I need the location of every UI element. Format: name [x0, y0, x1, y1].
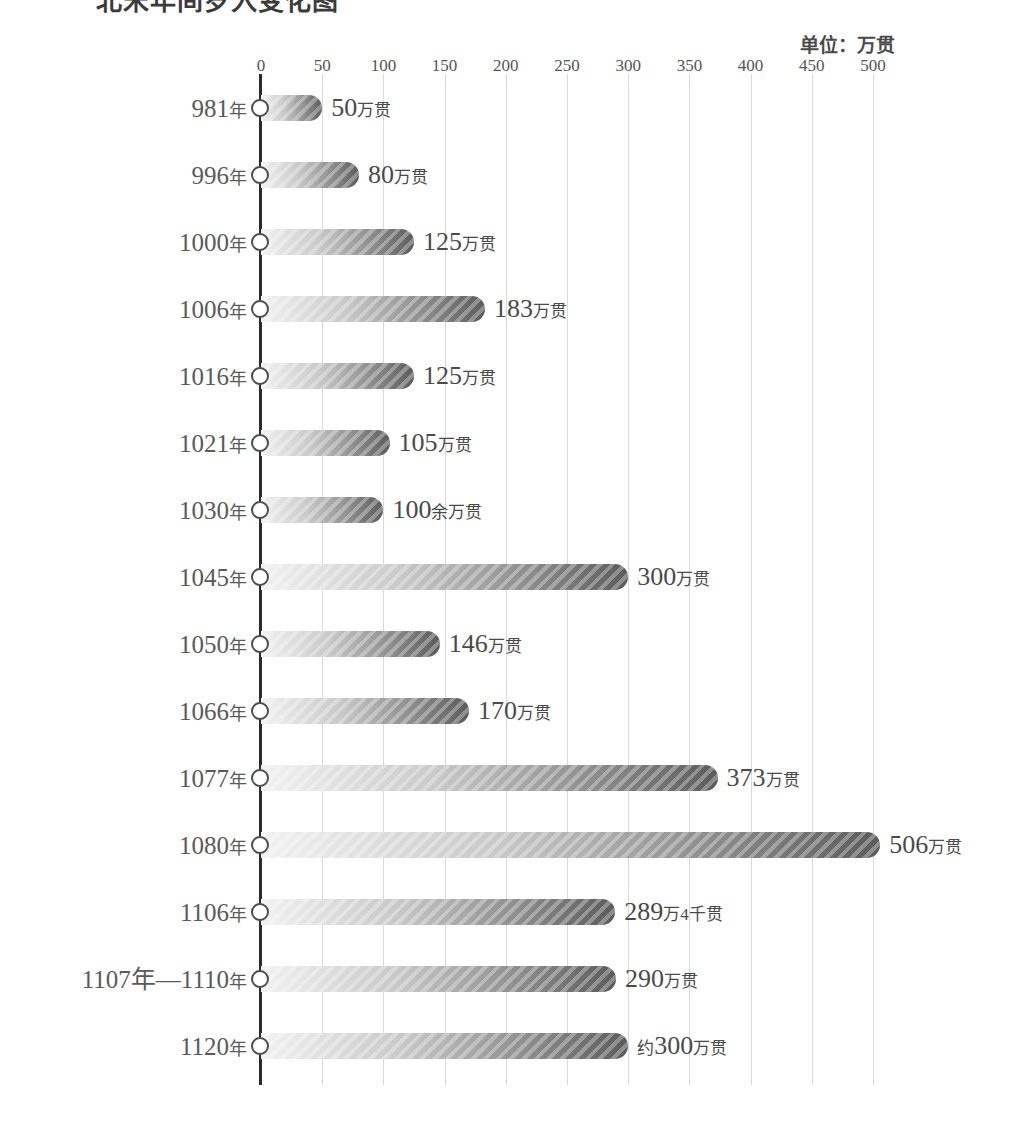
value-number: 289	[624, 897, 663, 926]
value-unit: 万贯	[517, 704, 551, 723]
row-year-unit: 年	[229, 369, 247, 389]
value-unit: 万4千贯	[663, 905, 723, 924]
value-number: 170	[478, 696, 517, 725]
row-year-unit: 年	[229, 1039, 247, 1059]
row-year-label: 981年	[192, 96, 248, 121]
value-unit: 万贯	[488, 637, 522, 656]
bar-row[interactable]: 996年80万贯	[0, 155, 1023, 195]
bar-row[interactable]: 1045年300万贯	[0, 557, 1023, 597]
row-year-label: 1000年	[179, 230, 247, 255]
row-year-number: 1030	[179, 497, 229, 524]
row-year-unit: 年	[229, 302, 247, 322]
bar[interactable]	[261, 631, 440, 657]
bar-row[interactable]: 1006年183万贯	[0, 289, 1023, 329]
value-prefix: 约	[637, 1039, 654, 1058]
row-year-number: 1016	[179, 363, 229, 390]
bar-value-label: 100余万贯	[392, 497, 482, 523]
row-year-unit: 年	[229, 570, 247, 590]
bar-row[interactable]: 1077年373万贯	[0, 758, 1023, 798]
bar-value-label: 50万贯	[331, 95, 391, 121]
row-year-unit: 年	[229, 503, 247, 523]
value-unit: 万贯	[693, 1039, 727, 1058]
row-axis-marker	[251, 702, 269, 720]
bar[interactable]	[261, 95, 322, 121]
row-year-label: 1107年—1110年	[82, 967, 247, 992]
row-year-unit: 年	[229, 235, 247, 255]
value-unit: 万贯	[664, 972, 698, 991]
value-unit: 万贯	[928, 838, 962, 857]
row-year-label: 1066年	[179, 699, 247, 724]
row-axis-marker	[251, 635, 269, 653]
row-year-number: 1080	[179, 832, 229, 859]
bar-value-label: 125万贯	[423, 363, 496, 389]
bar-row[interactable]: 1000年125万贯	[0, 222, 1023, 262]
bar[interactable]	[261, 765, 718, 791]
row-year-unit: 年	[229, 704, 247, 724]
row-year-number: 1000	[179, 229, 229, 256]
bar-row[interactable]: 1050年146万贯	[0, 624, 1023, 664]
bar-value-label: 506万贯	[889, 832, 962, 858]
row-year-label: 1080年	[179, 833, 247, 858]
value-unit: 万贯	[462, 369, 496, 388]
bar-row[interactable]: 1107年—1110年290万贯	[0, 959, 1023, 999]
value-number: 300	[637, 562, 676, 591]
plot-area: 050100150200250300350400450500 981年50万贯9…	[0, 0, 1023, 1134]
value-number: 80	[368, 160, 394, 189]
bar[interactable]	[261, 1033, 628, 1059]
bar[interactable]	[261, 497, 383, 523]
bar-value-label: 373万贯	[727, 765, 800, 791]
bar-row[interactable]: 1016年125万贯	[0, 356, 1023, 396]
row-year-label: 1120年	[180, 1034, 247, 1059]
value-number: 290	[625, 964, 664, 993]
bar-row[interactable]: 1021年105万贯	[0, 423, 1023, 463]
row-year-number: 1066	[179, 698, 229, 725]
bar[interactable]	[261, 899, 615, 925]
bar-rows: 981年50万贯996年80万贯1000年125万贯1006年183万贯1016…	[0, 0, 1023, 1134]
value-number: 125	[423, 227, 462, 256]
bar-row[interactable]: 981年50万贯	[0, 88, 1023, 128]
bar-value-label: 约300万贯	[637, 1033, 727, 1059]
bar-row[interactable]: 1030年100余万贯	[0, 490, 1023, 530]
bar[interactable]	[261, 363, 414, 389]
bar[interactable]	[261, 296, 485, 322]
value-unit: 万贯	[766, 771, 800, 790]
bar[interactable]	[261, 832, 880, 858]
bar[interactable]	[261, 564, 628, 590]
bar-value-label: 289万4千贯	[624, 899, 723, 925]
value-unit: 余万贯	[431, 503, 482, 522]
value-unit: 万贯	[438, 436, 472, 455]
row-year-unit: 年	[229, 905, 247, 925]
row-year-number: 1077	[179, 765, 229, 792]
bar[interactable]	[261, 966, 616, 992]
bar-value-label: 125万贯	[423, 229, 496, 255]
row-axis-marker	[251, 166, 269, 184]
row-axis-marker	[251, 836, 269, 854]
value-unit: 万贯	[676, 570, 710, 589]
bar[interactable]	[261, 229, 414, 255]
row-axis-marker	[251, 1037, 269, 1055]
bar-row[interactable]: 1066年170万贯	[0, 691, 1023, 731]
row-axis-marker	[251, 233, 269, 251]
row-axis-marker	[251, 501, 269, 519]
bar[interactable]	[261, 698, 469, 724]
bar-value-label: 146万贯	[449, 631, 522, 657]
bar[interactable]	[261, 430, 390, 456]
row-year-number: 1021	[179, 430, 229, 457]
row-year-number: 1120	[180, 1033, 229, 1060]
value-number: 105	[399, 428, 438, 457]
row-year-label: 1016年	[179, 364, 247, 389]
row-year-label: 1021年	[179, 431, 247, 456]
row-year-label: 1077年	[179, 766, 247, 791]
bar[interactable]	[261, 162, 359, 188]
row-year-unit: 年	[229, 436, 247, 456]
row-year-number: 1045	[179, 564, 229, 591]
bar-value-label: 80万贯	[368, 162, 428, 188]
row-year-label: 1045年	[179, 565, 247, 590]
row-year-unit: 年	[229, 637, 247, 657]
row-year-label: 1050年	[179, 632, 247, 657]
row-axis-marker	[251, 568, 269, 586]
bar-row[interactable]: 1106年289万4千贯	[0, 892, 1023, 932]
value-number: 100	[392, 495, 431, 524]
bar-row[interactable]: 1120年约300万贯	[0, 1026, 1023, 1066]
bar-row[interactable]: 1080年506万贯	[0, 825, 1023, 865]
